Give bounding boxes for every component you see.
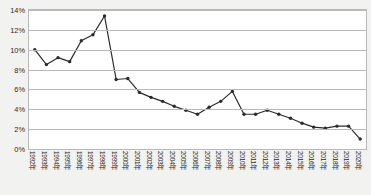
data-point-marker xyxy=(358,137,361,140)
x-tick-label: 2017年 xyxy=(319,151,328,170)
gridline-2 xyxy=(29,129,366,130)
x-tick-label: 1998年 xyxy=(98,151,107,170)
data-point-marker xyxy=(219,100,222,103)
y-tick-label: 10% xyxy=(0,45,25,54)
y-tick-label: 0% xyxy=(0,145,25,154)
x-tick-label: 2015年 xyxy=(296,151,305,170)
data-point-marker xyxy=(289,117,292,120)
x-tick-label: 2016年 xyxy=(307,151,316,170)
plot-area xyxy=(28,9,367,150)
y-tick-label: 6% xyxy=(0,85,25,94)
x-tick-label: 2018年 xyxy=(331,151,340,170)
data-point-marker xyxy=(149,96,152,99)
data-point-marker xyxy=(161,100,164,103)
series-polyline xyxy=(35,16,360,139)
data-point-marker xyxy=(56,56,59,59)
data-point-marker xyxy=(68,60,71,63)
gridline-8 xyxy=(29,70,366,71)
gridline-0 xyxy=(29,149,366,150)
x-tick-label: 2012年 xyxy=(261,151,270,170)
x-axis-tick-labels: 1992年1993年1994年1995年1996年1997年1998年1999年… xyxy=(28,151,367,195)
y-tick-label: 14% xyxy=(0,6,25,15)
data-series-line xyxy=(29,10,366,149)
x-tick-label: 1995年 xyxy=(63,151,72,170)
x-tick-label: 2008年 xyxy=(214,151,223,170)
y-tick-label: 8% xyxy=(0,65,25,74)
gridline-4 xyxy=(29,109,366,110)
x-tick-label: 2001年 xyxy=(133,151,142,170)
x-tick-label: 2005年 xyxy=(179,151,188,170)
data-point-marker xyxy=(300,121,303,124)
gridline-12 xyxy=(29,30,366,31)
data-point-marker xyxy=(80,39,83,42)
x-tick-label: 2010年 xyxy=(238,151,247,170)
x-tick-label: 2014年 xyxy=(284,151,293,170)
x-tick-label: 2000年 xyxy=(121,151,130,170)
x-tick-label: 2006年 xyxy=(191,151,200,170)
data-point-marker xyxy=(347,124,350,127)
data-point-marker xyxy=(196,113,199,116)
line-chart: 0%2%4%6%8%10%12%14% 1992年1993年1994年1995年… xyxy=(0,0,371,195)
data-point-marker xyxy=(277,113,280,116)
x-tick-label: 2011年 xyxy=(249,151,258,170)
gridline-14 xyxy=(29,10,366,11)
data-point-marker xyxy=(91,33,94,36)
gridline-6 xyxy=(29,89,366,90)
data-point-marker xyxy=(173,105,176,108)
x-tick-label: 2003年 xyxy=(156,151,165,170)
x-tick-label: 2009年 xyxy=(226,151,235,170)
x-tick-label: 2020年 xyxy=(354,151,363,170)
x-tick-label: 1997年 xyxy=(86,151,95,170)
y-tick-label: 2% xyxy=(0,125,25,134)
gridline-10 xyxy=(29,50,366,51)
data-point-marker xyxy=(126,77,129,80)
y-tick-label: 4% xyxy=(0,105,25,114)
x-tick-label: 1993年 xyxy=(40,151,49,170)
x-tick-label: 2004年 xyxy=(168,151,177,170)
x-tick-label: 2007年 xyxy=(203,151,212,170)
data-point-marker xyxy=(45,63,48,66)
x-tick-label: 1994年 xyxy=(52,151,61,170)
data-point-marker xyxy=(254,113,257,116)
data-point-marker xyxy=(103,14,106,17)
data-point-marker xyxy=(138,91,141,94)
x-tick-label: 1999年 xyxy=(110,151,119,170)
x-tick-label: 1996年 xyxy=(75,151,84,170)
x-tick-label: 2002年 xyxy=(145,151,154,170)
data-point-marker xyxy=(114,78,117,81)
data-point-marker xyxy=(335,124,338,127)
y-tick-label: 12% xyxy=(0,25,25,34)
x-tick-label: 1992年 xyxy=(28,151,37,170)
x-tick-label: 2013年 xyxy=(272,151,281,170)
x-tick-label: 2019年 xyxy=(342,151,351,170)
data-point-marker xyxy=(242,113,245,116)
